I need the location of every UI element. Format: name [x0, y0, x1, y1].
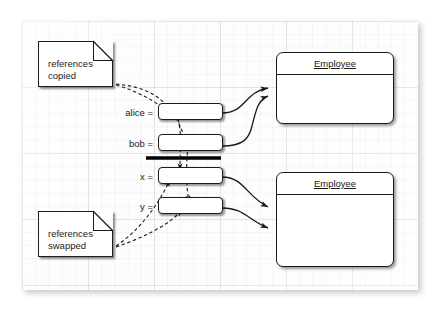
note-fold-diagonal-icon [92, 40, 114, 62]
variable-label-alice: alice = [105, 107, 153, 118]
note-fold-corner-icon [93, 211, 113, 231]
reference-box-bob[interactable] [158, 134, 223, 151]
note-references-copied[interactable]: references copied [38, 41, 113, 87]
note-references-copied-text: references copied [48, 58, 93, 82]
arrow-bob-to-employee-top [222, 96, 268, 146]
note-references-swapped[interactable]: references swapped [38, 211, 113, 257]
object-box-employee-top[interactable]: Employee [276, 52, 394, 124]
variable-label-y: y = [105, 201, 153, 212]
diagram-stage: references copied references swapped ali… [0, 0, 441, 313]
note-fold-corner-icon [93, 41, 113, 61]
dashed-swapped-to-y [116, 210, 182, 247]
reference-box-alice[interactable] [158, 103, 223, 120]
arrow-x-to-employee-bottom [222, 177, 268, 207]
employee-bottom-title: Employee [314, 178, 356, 189]
variable-label-bob: bob = [105, 138, 153, 149]
note-references-swapped-text: references swapped [48, 228, 93, 252]
variable-label-x: x = [105, 171, 153, 182]
employee-top-title: Employee [314, 58, 356, 69]
employee-top-header: Employee [277, 53, 393, 75]
note-fold-diagonal-icon [92, 210, 114, 232]
employee-bottom-header: Employee [277, 173, 393, 195]
reference-box-y[interactable] [158, 197, 223, 214]
ref-value-stubs [185, 113, 222, 208]
object-box-employee-bottom[interactable]: Employee [276, 172, 394, 267]
diagram-layer: references copied references swapped ali… [0, 0, 441, 313]
reference-box-x[interactable] [158, 167, 223, 184]
arrow-y-to-employee-bottom [222, 208, 268, 228]
